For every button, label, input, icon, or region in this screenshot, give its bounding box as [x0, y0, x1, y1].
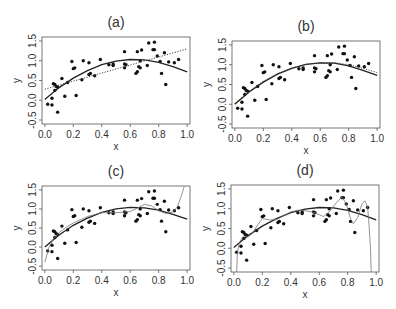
panel-title: (c)	[108, 163, 124, 179]
data-point	[259, 208, 262, 211]
figure-2x2-scatter-panels: (a)0.00.20.40.60.81.0-0.50.00.51.01.5xy(…	[0, 0, 396, 309]
x-tick-label: 0.0	[228, 133, 242, 144]
plot-frame	[42, 37, 190, 124]
data-point	[330, 52, 333, 55]
x-tick-label: 0.8	[152, 129, 166, 140]
y-axis-label: y	[11, 226, 22, 231]
data-point	[89, 219, 92, 222]
data-point	[177, 58, 180, 61]
data-point	[138, 66, 141, 69]
x-tick-label: 0.6	[313, 133, 327, 144]
data-point	[263, 70, 266, 73]
x-tick-label: 0.0	[227, 277, 241, 288]
data-point	[336, 68, 339, 71]
x-tick-label: 0.4	[285, 133, 299, 144]
data-point	[245, 258, 248, 261]
data-point	[240, 101, 243, 104]
data-point	[89, 72, 92, 75]
x-tick-label: 0.6	[123, 275, 137, 286]
data-point	[160, 72, 163, 75]
data-point	[288, 206, 291, 209]
data-point	[337, 45, 340, 48]
y-tick-label: -0.5	[27, 111, 38, 129]
data-point	[325, 218, 328, 221]
data-point	[279, 76, 282, 79]
data-point	[313, 54, 316, 57]
data-point	[325, 198, 328, 201]
panel-a: (a)0.00.20.40.60.81.0-0.50.00.51.01.5xy	[11, 14, 195, 152]
data-point	[60, 224, 63, 227]
data-point	[252, 243, 255, 246]
data-point	[326, 74, 329, 77]
y-tick-label: 1.5	[27, 182, 38, 196]
high-order-polynomial-fit-line	[45, 186, 185, 262]
y-tick-label: 0.5	[217, 77, 228, 91]
quadratic-fit-line	[234, 208, 376, 248]
plot-frame	[42, 186, 190, 270]
y-tick-label: 0.5	[27, 221, 38, 235]
data-point	[289, 62, 292, 65]
data-point	[56, 257, 59, 260]
data-point	[327, 214, 330, 217]
x-tick-label: 0.2	[255, 277, 269, 288]
data-point	[60, 77, 63, 80]
data-point	[74, 241, 77, 244]
data-point	[56, 110, 59, 113]
x-tick-label: 1.0	[180, 129, 194, 140]
x-tick-label: 0.4	[95, 129, 109, 140]
x-axis-label: x	[114, 141, 119, 152]
data-point	[356, 208, 359, 211]
data-point	[153, 197, 156, 200]
data-point	[326, 54, 329, 57]
panel-b: (b)0.00.20.40.60.81.0-0.50.00.51.01.5xy	[201, 18, 385, 156]
data-point	[136, 70, 139, 73]
y-tick-label: 0.5	[27, 73, 38, 87]
data-point	[297, 67, 300, 70]
data-point	[93, 74, 96, 77]
data-point	[270, 82, 273, 85]
data-point	[271, 207, 274, 210]
data-point	[300, 212, 303, 215]
y-tick-label: 1.0	[216, 201, 227, 215]
x-tick-label: 0.2	[256, 133, 270, 144]
data-point	[80, 226, 83, 229]
data-point	[167, 208, 170, 211]
y-tick-label: 1.5	[216, 182, 227, 196]
data-point	[87, 209, 90, 212]
y-tick-label: 0.0	[217, 97, 228, 111]
data-point	[153, 189, 156, 192]
quadratic-fit-line	[235, 63, 377, 105]
data-point	[272, 63, 275, 66]
data-point	[147, 190, 150, 193]
data-point	[74, 94, 77, 97]
data-point	[336, 189, 339, 192]
panel-title: (a)	[107, 14, 124, 30]
data-point	[136, 198, 139, 201]
data-point	[343, 52, 346, 55]
data-point	[312, 198, 315, 201]
y-tick-label: -0.5	[217, 115, 228, 133]
y-tick-label: 1.5	[217, 38, 228, 52]
data-point	[153, 40, 156, 43]
data-point	[173, 61, 176, 64]
data-point	[283, 78, 286, 81]
y-tick-label: 1.5	[27, 34, 38, 48]
data-point	[140, 197, 143, 200]
y-tick-label: -0.5	[27, 257, 38, 275]
data-point	[253, 99, 256, 102]
data-point	[353, 55, 356, 58]
data-point	[343, 44, 346, 47]
x-tick-label: 0.0	[38, 275, 52, 286]
x-tick-label: 0.8	[341, 277, 355, 288]
data-point	[352, 199, 355, 202]
x-tick-label: 0.8	[152, 275, 166, 286]
data-point	[138, 214, 141, 217]
x-tick-label: 0.2	[66, 129, 80, 140]
data-point	[123, 50, 126, 53]
data-point	[164, 83, 167, 86]
data-point	[153, 48, 156, 51]
y-tick-label: 1.0	[217, 57, 228, 71]
data-point	[70, 60, 73, 63]
data-point	[313, 70, 316, 73]
data-point	[163, 200, 166, 203]
